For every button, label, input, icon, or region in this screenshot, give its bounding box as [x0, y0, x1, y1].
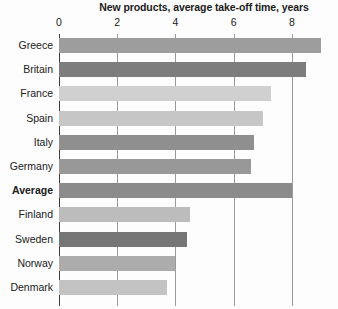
bar-germany: [59, 159, 251, 174]
category-label-britain: Britain: [23, 62, 53, 77]
x-tick-label-6: 6: [231, 16, 237, 28]
x-tick-label-2: 2: [114, 16, 120, 28]
bar-row: Spain: [59, 111, 263, 126]
bar-row: Italy: [59, 135, 254, 150]
bar-average: [59, 183, 292, 198]
x-tick-label-0: 0: [56, 16, 62, 28]
bar-finland: [59, 207, 190, 222]
category-label-norway: Norway: [17, 256, 53, 271]
plot-area: GreeceBritainFranceSpainItalyGermanyAver…: [59, 34, 338, 306]
x-axis-tick-labels: 02468: [0, 16, 338, 30]
bar-row: Norway: [59, 256, 175, 271]
bar-spain: [59, 111, 263, 126]
category-label-finland: Finland: [19, 207, 53, 222]
category-label-italy: Italy: [34, 135, 53, 150]
bar-sweden: [59, 232, 187, 247]
category-label-france: France: [20, 86, 53, 101]
category-label-average: Average: [12, 183, 53, 198]
bar-row: Greece: [59, 38, 321, 53]
bar-row: France: [59, 86, 271, 101]
bar-row: Finland: [59, 207, 190, 222]
bar-norway: [59, 256, 175, 271]
bar-france: [59, 86, 271, 101]
x-tick-label-4: 4: [172, 16, 178, 28]
bar-row: Britain: [59, 62, 306, 77]
category-label-germany: Germany: [10, 159, 53, 174]
bar-britain: [59, 62, 306, 77]
bar-row: Denmark: [59, 280, 167, 295]
chart-title: New products, average take-off time, yea…: [76, 1, 332, 13]
bar-denmark: [59, 280, 167, 295]
bar-italy: [59, 135, 254, 150]
bar-chart: New products, average take-off time, yea…: [0, 0, 338, 309]
bar-row: Germany: [59, 159, 251, 174]
category-label-denmark: Denmark: [10, 280, 53, 295]
bar-row: Sweden: [59, 232, 187, 247]
category-label-spain: Spain: [26, 111, 53, 126]
x-tick-label-8: 8: [289, 16, 295, 28]
bar-row: Average: [59, 183, 292, 198]
category-label-greece: Greece: [19, 38, 53, 53]
bar-greece: [59, 38, 321, 53]
category-label-sweden: Sweden: [15, 232, 53, 247]
